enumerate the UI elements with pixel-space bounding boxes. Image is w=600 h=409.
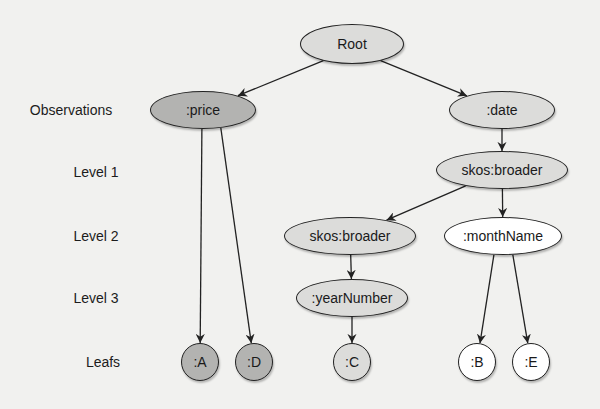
node-yearNumber: :yearNumber [296, 279, 408, 317]
node-label: :B [470, 354, 483, 370]
node-date: :date [449, 91, 555, 129]
level-label-leafs: Leafs [86, 354, 120, 370]
node-A: :A [181, 343, 219, 381]
node-label: Root [337, 36, 367, 52]
node-broader1: skos:broader [436, 151, 568, 189]
node-B: :B [458, 343, 496, 381]
node-label: :yearNumber [312, 290, 393, 306]
node-monthName: :monthName [444, 217, 562, 255]
level-label-level1: Level 1 [73, 164, 118, 180]
edge-root-to-date [381, 61, 467, 96]
node-broader2: skos:broader [284, 217, 416, 255]
level-label-level2: Level 2 [73, 228, 118, 244]
node-label: :C [345, 354, 359, 370]
node-price: :price [150, 91, 256, 129]
node-C: :C [333, 343, 371, 381]
level-label-level3: Level 3 [73, 290, 118, 306]
node-label: :price [186, 102, 220, 118]
node-label: skos:broader [462, 162, 543, 178]
node-E: :E [512, 343, 550, 381]
edge-monthName-to-E [513, 255, 528, 344]
node-D: :D [235, 343, 273, 381]
node-label: :E [524, 354, 537, 370]
tree-diagram: ObservationsLevel 1Level 2Level 3Leafs R… [0, 0, 600, 409]
level-label-observations: Observations [30, 102, 112, 118]
edge-broader2-to-yearNumber [351, 255, 352, 279]
edge-price-to-D [221, 128, 252, 343]
edge-monthName-to-B [480, 255, 494, 343]
node-label: :A [193, 354, 206, 370]
node-label: :D [247, 354, 261, 370]
edge-broader1-to-broader2 [387, 186, 466, 220]
node-label: :date [486, 102, 517, 118]
edge-price-to-A [200, 129, 202, 343]
node-label: :monthName [463, 228, 543, 244]
node-label: skos:broader [310, 228, 391, 244]
edge-root-to-price [238, 61, 324, 96]
node-root: Root [300, 24, 404, 64]
edges-layer [0, 0, 600, 409]
